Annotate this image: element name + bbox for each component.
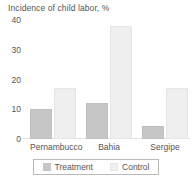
bar-group-sergipe: Sergipe: [142, 20, 188, 139]
x-tick-label-pernambucco: Pernambucco: [30, 142, 76, 152]
legend-label-control: Control: [122, 162, 149, 172]
bar-chart-figure: Incidence of child labor, % 40 30 20 10 …: [0, 0, 192, 179]
y-tick-label: 0: [16, 135, 21, 144]
legend-label-treatment: Treatment: [55, 162, 93, 172]
chart-title: Incidence of child labor, %: [8, 3, 109, 13]
y-tick-label: 20: [12, 75, 21, 84]
legend-swatch-icon: [110, 163, 118, 171]
legend-swatch-icon: [43, 163, 51, 171]
chart-legend: Treatment Control: [33, 159, 159, 175]
y-tick-label: 10: [12, 105, 21, 114]
bar-treatment-sergipe: [142, 126, 164, 139]
legend-entry-treatment[interactable]: Treatment: [43, 162, 93, 172]
bar-treatment-pernambucco: [30, 109, 52, 139]
legend-entry-control[interactable]: Control: [110, 162, 149, 172]
x-tick-label-sergipe: Sergipe: [142, 142, 188, 152]
x-tick-label-bahia: Bahia: [86, 142, 132, 152]
y-tick-label: 40: [12, 16, 21, 25]
bar-control-bahia: [110, 26, 132, 139]
bar-control-sergipe: [166, 88, 188, 139]
bar-control-pernambucco: [54, 88, 76, 139]
bar-group-pernambucco: Pernambucco: [30, 20, 76, 139]
bar-treatment-bahia: [86, 103, 108, 139]
bar-group-bahia: Bahia: [86, 20, 132, 139]
y-tick-label: 30: [12, 46, 21, 55]
plot-area: 40 30 20 10 0 Pernambucco Bahia Sergipe: [24, 20, 190, 139]
